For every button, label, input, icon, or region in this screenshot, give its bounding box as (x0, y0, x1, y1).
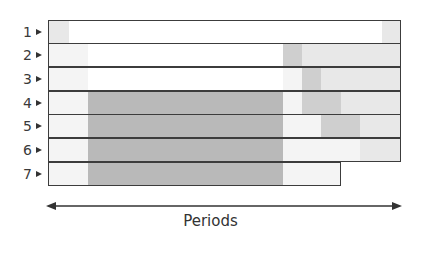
period-diagram: 1234567 Periods (0, 0, 421, 256)
axis-label: Periods (0, 212, 421, 230)
